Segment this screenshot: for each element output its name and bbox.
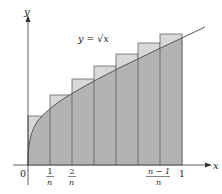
riemann-sum-diagram: y x 0 y = √x 1 n 2 n n − 1 n 1 [0, 0, 222, 194]
svg-text:n: n [156, 178, 161, 187]
x-axis-arrow-icon [205, 163, 212, 168]
svg-text:1: 1 [48, 167, 53, 176]
tick-label-1-over-n: 1 n [46, 167, 54, 187]
origin-label: 0 [20, 168, 26, 179]
x-axis-label: x [213, 160, 219, 171]
svg-text:n: n [47, 178, 52, 187]
tick-label-2-over-n: 2 n [68, 167, 76, 187]
svg-text:2: 2 [70, 167, 75, 176]
tick-label-one: 1 [179, 169, 185, 179]
svg-text:n − 1: n − 1 [148, 167, 170, 176]
tick-label-n-minus-1-over-n: n − 1 n [146, 167, 170, 187]
y-axis-label: y [23, 6, 30, 17]
svg-text:n: n [69, 178, 74, 187]
curve-label: y = √x [77, 33, 109, 44]
